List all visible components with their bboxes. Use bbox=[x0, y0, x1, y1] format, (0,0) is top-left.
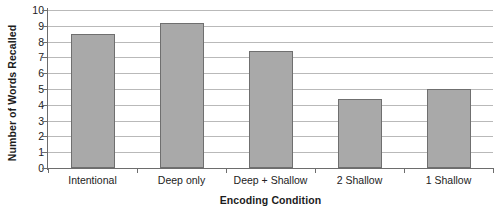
x-axis-tick-label: Deep + Shallow bbox=[234, 174, 308, 186]
y-axis-tick-mark bbox=[42, 89, 48, 90]
y-axis-tick-mark bbox=[42, 105, 48, 106]
x-axis-tick-mark bbox=[315, 168, 316, 173]
bar bbox=[249, 51, 293, 168]
x-axis-tick-mark bbox=[48, 168, 49, 173]
x-axis-tick-label: 1 Shallow bbox=[426, 174, 472, 186]
x-axis-tick-label: Intentional bbox=[68, 174, 116, 186]
y-axis-tick-mark bbox=[42, 136, 48, 137]
y-axis-tick-mark bbox=[42, 10, 48, 11]
x-axis-title: Encoding Condition bbox=[48, 194, 493, 206]
bar bbox=[71, 34, 115, 168]
bars-layer bbox=[48, 10, 493, 168]
y-axis-tick-mark bbox=[42, 42, 48, 43]
y-axis-title-text: Number of Words Recalled bbox=[6, 24, 18, 160]
x-axis-tick-mark bbox=[137, 168, 138, 173]
y-axis-tick-labels: 012345678910 bbox=[22, 10, 44, 168]
x-axis-tick-mark bbox=[226, 168, 227, 173]
bar bbox=[427, 89, 471, 168]
y-axis-title: Number of Words Recalled bbox=[0, 0, 24, 185]
x-axis-tick-mark bbox=[404, 168, 405, 173]
bar-chart: Number of Words Recalled 012345678910 In… bbox=[0, 0, 499, 216]
y-axis-tick-mark bbox=[42, 152, 48, 153]
y-axis-tick-mark bbox=[42, 57, 48, 58]
x-axis-tick-label: 2 Shallow bbox=[337, 174, 383, 186]
bar bbox=[160, 23, 204, 168]
bar bbox=[338, 99, 382, 168]
x-axis-tick-label: Deep only bbox=[158, 174, 205, 186]
x-axis-line bbox=[47, 168, 493, 169]
y-axis-tick-mark bbox=[42, 73, 48, 74]
y-axis-tick-mark bbox=[42, 121, 48, 122]
x-axis-tick-mark bbox=[493, 168, 494, 173]
x-axis-tick-labels: IntentionalDeep onlyDeep + Shallow2 Shal… bbox=[48, 174, 493, 190]
y-axis-tick-mark bbox=[42, 26, 48, 27]
